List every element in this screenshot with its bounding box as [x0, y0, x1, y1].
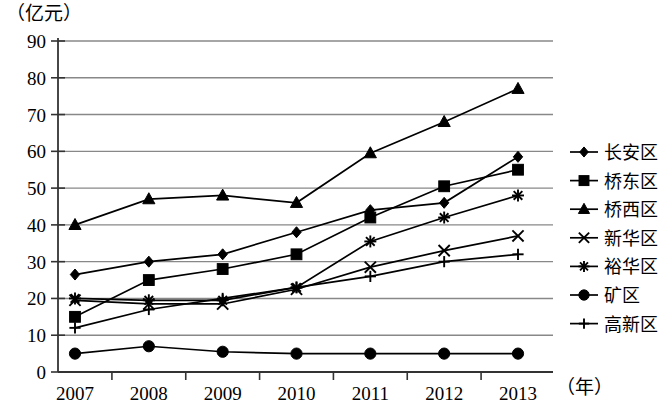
- marker-circle: [439, 348, 450, 359]
- legend-item: 桥东区: [570, 171, 658, 192]
- series-line: [75, 170, 518, 317]
- chart-legend: 长安区桥东区桥西区新华区裕华区矿区高新区: [570, 142, 658, 335]
- legend-label: 长安区: [604, 142, 658, 163]
- x-axis-tick-labels: 2007200820092010201120122013: [56, 383, 537, 404]
- line-chart: （亿元） （年） 0102030405060708090 20072008200…: [0, 0, 672, 408]
- y-axis-tick-labels: 0102030405060708090: [27, 31, 46, 383]
- legend-item: 新华区: [570, 228, 658, 249]
- legend-item: 桥西区: [570, 199, 658, 220]
- y-tick-label: 0: [37, 362, 47, 383]
- marker-diamond: [218, 249, 227, 260]
- x-tick-label: 2012: [425, 383, 463, 404]
- marker-square: [217, 264, 228, 275]
- y-tick-label: 60: [27, 141, 46, 162]
- marker-diamond: [439, 197, 448, 208]
- legend-label: 裕华区: [604, 256, 658, 277]
- y-tick-label: 20: [27, 288, 46, 309]
- legend-label: 矿区: [604, 285, 640, 306]
- marker-square: [70, 311, 81, 322]
- legend-label: 新华区: [604, 228, 658, 249]
- y-tick-label: 70: [27, 105, 46, 126]
- legend-item: 矿区: [570, 285, 640, 306]
- x-tick-label: 2007: [56, 383, 94, 404]
- marker-diamond: [513, 151, 522, 162]
- y-tick-label: 10: [27, 325, 46, 346]
- legend-item: 高新区: [570, 314, 658, 335]
- series-line: [75, 236, 518, 304]
- data-series: [69, 230, 523, 309]
- marker-circle: [365, 348, 376, 359]
- marker-diamond: [70, 269, 79, 280]
- y-tick-label: 90: [27, 31, 46, 52]
- marker-diamond: [292, 227, 301, 238]
- x-tick-label: 2013: [499, 383, 537, 404]
- marker-triangle: [512, 82, 524, 93]
- marker-triangle: [438, 116, 450, 127]
- x-tick-label: 2010: [278, 383, 316, 404]
- marker-diamond: [144, 256, 153, 267]
- legend-label: 桥东区: [604, 171, 658, 192]
- marker-triangle: [217, 189, 229, 200]
- marker-circle: [512, 348, 523, 359]
- marker-circle: [69, 348, 80, 359]
- marker-square: [439, 181, 450, 192]
- marker-square: [143, 275, 154, 286]
- data-series: [69, 82, 524, 229]
- legend-item: 长安区: [570, 142, 658, 163]
- chart-axes: [51, 38, 553, 380]
- marker-circle: [579, 290, 589, 300]
- marker-circle: [217, 346, 228, 357]
- x-tick-label: 2011: [352, 383, 389, 404]
- gridlines: [58, 41, 553, 335]
- marker-square: [365, 212, 376, 223]
- x-tick-label: 2008: [130, 383, 168, 404]
- marker-circle: [143, 341, 154, 352]
- legend-item: 裕华区: [570, 256, 658, 277]
- marker-square: [513, 164, 524, 175]
- marker-square: [291, 249, 302, 260]
- y-tick-label: 30: [27, 252, 46, 273]
- data-series-group: [69, 82, 524, 359]
- y-tick-label: 80: [27, 68, 46, 89]
- legend-label: 高新区: [604, 314, 658, 335]
- marker-square: [579, 176, 589, 186]
- marker-circle: [291, 348, 302, 359]
- y-tick-label: 50: [27, 178, 46, 199]
- data-series: [69, 341, 523, 360]
- x-tick-label: 2009: [204, 383, 242, 404]
- chart-plot-area: 0102030405060708090 20072008200920102011…: [0, 0, 672, 408]
- marker-diamond: [580, 147, 589, 157]
- y-tick-label: 40: [27, 215, 46, 236]
- legend-label: 桥西区: [604, 199, 658, 220]
